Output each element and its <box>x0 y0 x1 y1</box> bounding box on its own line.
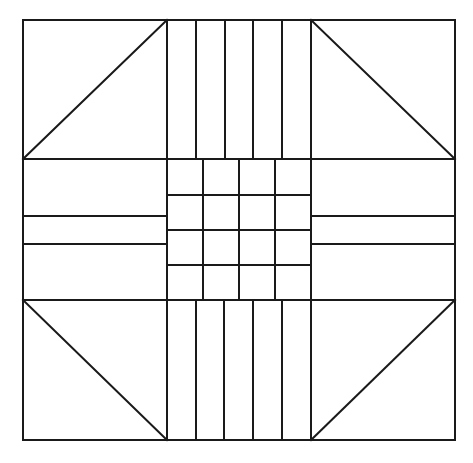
right-band-strips <box>311 216 455 244</box>
corner-diagonal-bottom-left <box>23 300 167 440</box>
quilt-svg <box>0 0 473 463</box>
quilt-diagram <box>0 0 473 463</box>
corner-diagonal-bottom-right <box>311 300 455 440</box>
left-band-strips <box>23 216 167 244</box>
top-band-strips <box>196 20 282 159</box>
corner-diagonal-top-right <box>311 20 455 159</box>
bottom-band-strips <box>196 300 282 440</box>
corner-diagonal-top-left <box>23 20 167 159</box>
center-grid <box>167 159 311 300</box>
